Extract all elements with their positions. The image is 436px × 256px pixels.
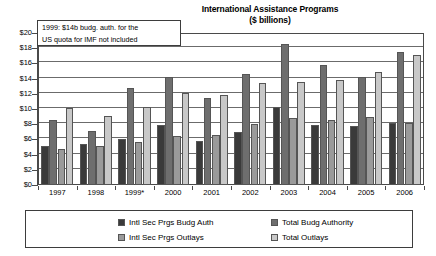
bar-2005-s1 — [358, 77, 366, 185]
bar-2003-s3 — [297, 82, 305, 185]
bar-group-1999 — [115, 33, 154, 185]
bar-group-2001 — [192, 33, 231, 185]
y-tick-label-2: $2 — [24, 166, 32, 174]
legend-swatch-icon-2 — [118, 234, 125, 241]
bar-2003-s2 — [289, 118, 297, 185]
y-tick-mark-2 — [32, 170, 37, 171]
bar-1997-s0 — [41, 146, 49, 185]
x-tick-mark-5 — [231, 186, 232, 190]
x-tick-mark-4 — [192, 186, 193, 190]
legend-item-0[interactable]: Intl Sec Prgs Budg Auth — [118, 218, 214, 227]
y-tick-mark-6 — [32, 139, 37, 140]
bar-1999-s1 — [127, 88, 135, 185]
bar-2002-s3 — [259, 83, 267, 185]
bar-1999-s3 — [143, 107, 151, 185]
bar-2006-s0 — [389, 123, 397, 185]
legend-item-1[interactable]: Total Budg Authority — [271, 218, 353, 227]
bar-group-1997 — [38, 33, 77, 185]
annotation-line-1: 1999: $14b budg. auth. for the — [42, 22, 177, 34]
x-tick-mark-6 — [270, 186, 271, 190]
legend-label-3: Total Outlays — [282, 233, 328, 242]
x-tick-label-1998: 1998 — [76, 188, 116, 197]
x-tick-label-1999: 1999* — [115, 188, 155, 197]
bar-chart: International Assistance Programs ($ bil… — [0, 0, 436, 256]
bar-2006-s1 — [397, 52, 405, 185]
bar-1998-s2 — [96, 146, 104, 185]
bar-2005-s2 — [366, 117, 374, 185]
y-tick-mark-12 — [32, 94, 37, 95]
bar-1997-s3 — [66, 108, 74, 185]
bar-2001-s3 — [220, 95, 228, 185]
y-tick-label-6: $6 — [24, 135, 32, 143]
y-tick-label-16: $16 — [19, 59, 32, 67]
bar-1998-s3 — [104, 116, 112, 185]
legend-item-2[interactable]: Intl Sec Prgs Outlays — [118, 233, 204, 242]
y-tick-label-10: $10 — [19, 105, 32, 113]
bar-2000-s2 — [173, 136, 181, 185]
bar-2003-s1 — [281, 44, 289, 185]
bar-1999-s0 — [118, 139, 126, 185]
x-tick-label-1997: 1997 — [37, 188, 77, 197]
chart-title-main: International Assistance Programs — [140, 4, 400, 15]
y-tick-label-20: $20 — [19, 29, 32, 37]
bar-2003-s0 — [273, 107, 281, 185]
bar-2004-s0 — [311, 125, 319, 185]
bar-2000-s1 — [165, 77, 173, 185]
bar-2004-s1 — [320, 65, 328, 185]
legend-item-3[interactable]: Total Outlays — [271, 233, 328, 242]
x-tick-mark-9 — [385, 186, 386, 190]
bar-1997-s2 — [58, 149, 66, 185]
y-tick-label-12: $12 — [19, 90, 32, 98]
x-tick-label-2002: 2002 — [230, 188, 270, 197]
y-tick-mark-0 — [32, 185, 37, 186]
x-tick-mark-8 — [347, 186, 348, 190]
legend-swatch-icon-0 — [118, 219, 125, 226]
bar-2005-s3 — [375, 72, 383, 185]
bar-2006-s2 — [405, 123, 413, 185]
bar-2001-s2 — [212, 135, 220, 185]
bar-2002-s0 — [234, 132, 242, 185]
x-tick-mark-0 — [38, 186, 39, 190]
y-tick-mark-10 — [32, 109, 37, 110]
y-tick-mark-8 — [32, 124, 37, 125]
x-tick-label-2004: 2004 — [308, 188, 348, 197]
bar-2002-s1 — [242, 74, 250, 185]
annotation-callout: 1999: $14b budg. auth. for the US quota … — [37, 20, 181, 46]
bar-1998-s0 — [80, 144, 88, 185]
y-tick-mark-4 — [32, 155, 37, 156]
x-axis: 199719981999*200020012002200320042005200… — [38, 188, 424, 202]
annotation-line-2: US quota for IMF not included — [42, 34, 177, 46]
bar-group-2006 — [385, 33, 424, 185]
x-tick-mark-7 — [308, 186, 309, 190]
y-tick-mark-14 — [32, 79, 37, 80]
x-tick-label-2006: 2006 — [385, 188, 425, 197]
x-tick-label-2001: 2001 — [192, 188, 232, 197]
bar-2000-s3 — [182, 93, 190, 185]
y-tick-mark-18 — [32, 48, 37, 49]
bars-layer — [38, 33, 424, 185]
bar-1999-s2 — [135, 142, 143, 185]
legend-label-0: Intl Sec Prgs Budg Auth — [129, 218, 214, 227]
legend-swatch-icon-3 — [271, 234, 278, 241]
x-tick-label-2003: 2003 — [269, 188, 309, 197]
y-tick-label-14: $14 — [19, 75, 32, 83]
bar-2004-s2 — [328, 120, 336, 185]
y-tick-mark-16 — [32, 63, 37, 64]
bar-group-2002 — [231, 33, 270, 185]
bar-2001-s0 — [196, 141, 204, 185]
y-tick-label-8: $8 — [24, 120, 32, 128]
y-axis: $0$2$4$6$8$10$12$14$16$18$20 — [0, 27, 36, 191]
bar-2000-s0 — [157, 125, 165, 185]
y-tick-label-4: $4 — [24, 151, 32, 159]
x-tick-mark-1 — [77, 186, 78, 190]
x-tick-label-2005: 2005 — [346, 188, 386, 197]
bar-group-1998 — [77, 33, 116, 185]
bar-2006-s3 — [413, 55, 421, 185]
legend-label-1: Total Budg Authority — [282, 218, 353, 227]
bar-group-2005 — [347, 33, 386, 185]
x-tick-mark-10 — [424, 186, 425, 190]
x-tick-mark-2 — [115, 186, 116, 190]
y-tick-label-0: $0 — [24, 181, 32, 189]
x-tick-mark-3 — [154, 186, 155, 190]
bar-2004-s3 — [336, 80, 344, 185]
